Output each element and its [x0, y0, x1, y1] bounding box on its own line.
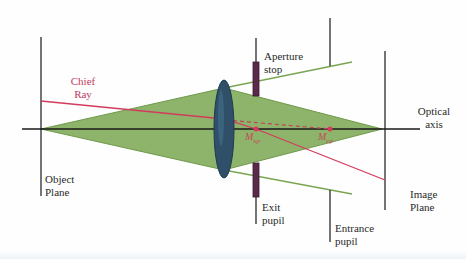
object-plane-label: Object Plane	[45, 173, 74, 199]
object-plane-label-line2: Plane	[45, 186, 74, 199]
object-plane-label-line1: Object	[45, 173, 74, 186]
exit-pupil-symbol-sub: xp	[253, 137, 260, 145]
chief-ray-label: Chief Ray	[68, 75, 98, 101]
optical-diagram: Chief Ray Aperture stop Optical axis Obj…	[0, 0, 466, 259]
optical-axis-label-line2: axis	[412, 118, 456, 131]
entrance-pupil-label-line1: Entrance	[335, 222, 374, 235]
exit-pupil-label-line2: pupil	[262, 214, 285, 227]
optical-axis-label: Optical axis	[412, 105, 456, 131]
chief-ray-label-line1: Chief	[68, 75, 98, 88]
lens-highlight	[218, 90, 224, 146]
image-plane-label: Image Plane	[410, 188, 437, 214]
entrance-pupil-symbol: Mep	[318, 131, 333, 145]
exit-pupil-symbol: Mxp	[245, 131, 260, 145]
lower-marginal-ray-extension	[224, 170, 352, 194]
aperture-stop-label-line1: Aperture	[264, 50, 303, 63]
optical-axis-label-line1: Optical	[412, 105, 456, 118]
image-plane-label-line1: Image	[410, 188, 437, 201]
optical-diagram-svg	[0, 0, 466, 259]
exit-pupil-label-line1: Exit	[262, 201, 285, 214]
bottom-band	[0, 250, 466, 259]
aperture-stop-bottom-bar	[253, 163, 259, 197]
lens-icon	[214, 80, 234, 178]
aperture-stop-top-bar	[253, 62, 259, 96]
entrance-pupil-symbol-sub: ep	[326, 137, 333, 145]
chief-ray-label-line2: Ray	[68, 88, 98, 101]
aperture-stop-label-line2: stop	[264, 63, 303, 76]
exit-pupil-label: Exit pupil	[262, 201, 285, 227]
entrance-pupil-label: Entrance pupil	[335, 222, 374, 248]
image-plane-label-line2: Plane	[410, 201, 437, 214]
aperture-stop-label: Aperture stop	[264, 50, 303, 76]
entrance-pupil-label-line2: pupil	[335, 235, 374, 248]
